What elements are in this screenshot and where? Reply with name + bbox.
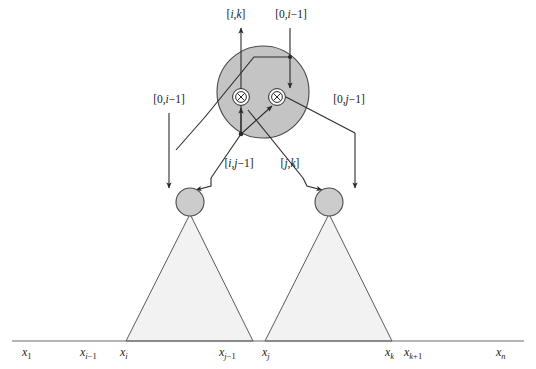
axis-tick-x-k: xk [384, 345, 394, 361]
axis-tick-x-n: xn [495, 345, 506, 361]
label-0-i-minus-1-in: [0,i−1] [275, 8, 307, 21]
subtree-triangle-right-group [265, 214, 392, 341]
subtree-triangle-right [265, 214, 392, 341]
axis-tick-x-j: xj [261, 345, 270, 361]
label-j-k: [j,k] [281, 157, 300, 170]
edge-to-child-right-inner [303, 178, 322, 190]
axis-tick-x-k-plus-1: xk+1 [403, 345, 422, 361]
axis-tick-x-1: x1 [21, 345, 32, 361]
edge-label-0-i-minus-1-connector [169, 150, 176, 158]
edge-to-child-left-inner [196, 178, 211, 190]
subtree-triangle-left-group [126, 214, 253, 341]
label-i-k-out: [i,k] [227, 8, 246, 21]
axis-tick-x-j-minus-1: xj−1 [218, 345, 236, 361]
axis-tick-x-i: xi [119, 345, 128, 361]
axis-tick-x-i-minus-1: xi−1 [79, 345, 97, 361]
subtree-triangle-left [126, 214, 253, 341]
child-node-right [315, 188, 343, 216]
junction-dot-top-elbow [288, 55, 292, 59]
operator-node-left-group [233, 89, 250, 106]
child-node-left [176, 188, 204, 216]
operator-node-right-group [269, 89, 286, 106]
label-i-j-minus-1: [i,j−1] [224, 157, 253, 170]
label-0-i-minus-1-out: [0,i−1] [153, 93, 185, 106]
figure-container: [i,k] [0,i−1] [0,i−1] [0,j−1] [i,j−1] [j… [0, 0, 536, 369]
label-0-j-minus-1-in: [0,j−1] [333, 93, 365, 106]
edge-out-0-i-minus-1-tail [176, 117, 205, 150]
edge-cross-down-left [211, 134, 241, 178]
diagram-canvas: [i,k] [0,i−1] [0,i−1] [0,j−1] [i,j−1] [j… [0, 0, 536, 369]
root-cluster-circle [217, 46, 309, 138]
